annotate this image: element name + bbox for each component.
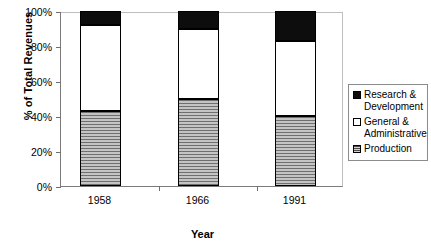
bar-segment-ga[interactable] — [80, 25, 121, 111]
bar-segment-rd[interactable] — [275, 11, 316, 41]
y-tick-mark — [56, 152, 61, 153]
y-axis-title: % of Total Revenues — [22, 0, 34, 146]
stacked-bar-chart: % of Total Revenues 0%20%40%60%80%100% 1… — [0, 0, 431, 251]
x-tick-label-1966: 1966 — [153, 194, 243, 206]
bar-segment-rd[interactable] — [80, 11, 121, 25]
legend-item-rd[interactable]: Research &Development — [353, 89, 424, 112]
bar-segment-prod[interactable] — [178, 99, 219, 187]
bar-segment-ga[interactable] — [275, 41, 316, 116]
y-tick-label: 100% — [25, 6, 52, 18]
legend-item-ga[interactable]: General &Administrative — [353, 116, 424, 139]
chart-legend: Research &DevelopmentGeneral &Administra… — [348, 84, 428, 161]
bar-1966[interactable] — [178, 11, 219, 186]
y-tick-label: 80% — [31, 41, 52, 53]
x-tick-mark — [257, 186, 258, 191]
bar-1991[interactable] — [275, 11, 316, 186]
legend-label: General &Administrative — [364, 116, 427, 139]
x-tick-label-1991: 1991 — [250, 194, 340, 206]
y-tick-label: 40% — [31, 111, 52, 123]
y-tick-mark — [56, 82, 61, 83]
y-tick-label: 20% — [31, 146, 52, 158]
legend-label: Production — [364, 143, 412, 155]
legend-label: Research &Development — [364, 89, 423, 112]
bar-1958[interactable] — [80, 11, 121, 186]
y-tick-mark — [56, 47, 61, 48]
y-tick-label: 60% — [31, 76, 52, 88]
bar-segment-prod[interactable] — [80, 111, 121, 186]
x-tick-mark — [159, 186, 160, 191]
legend-swatch-icon — [353, 118, 361, 126]
y-tick-mark — [56, 187, 61, 188]
legend-item-prod[interactable]: Production — [353, 143, 424, 155]
x-tick-label-1958: 1958 — [55, 194, 145, 206]
bar-segment-prod[interactable] — [275, 116, 316, 186]
bar-segment-rd[interactable] — [178, 11, 219, 29]
x-axis-title: Year — [60, 228, 345, 240]
legend-swatch-icon — [353, 91, 361, 99]
y-tick-mark — [56, 117, 61, 118]
y-tick-label: 0% — [37, 181, 52, 193]
bar-segment-ga[interactable] — [178, 29, 219, 99]
legend-swatch-icon — [353, 145, 361, 153]
plot-area: 0%20%40%60%80%100% — [60, 12, 343, 187]
y-tick-mark — [56, 12, 61, 13]
